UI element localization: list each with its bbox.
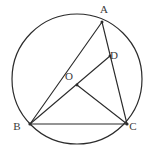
label-b: B bbox=[13, 120, 20, 132]
label-a: A bbox=[100, 3, 108, 15]
label-o: O bbox=[65, 70, 73, 82]
segment-o-c bbox=[77, 85, 127, 124]
vertex-point-c bbox=[125, 122, 128, 125]
segment-b-d-through-o bbox=[30, 56, 110, 124]
vertex-point-o bbox=[76, 84, 79, 87]
label-d: D bbox=[110, 49, 118, 61]
vertex-point-b bbox=[28, 122, 31, 125]
geometry-figure: A B C D O bbox=[0, 0, 155, 154]
geometry-canvas: A B C D O bbox=[0, 0, 155, 154]
vertex-point-a bbox=[101, 21, 104, 24]
label-c: C bbox=[129, 120, 136, 132]
segment-a-c bbox=[102, 22, 127, 124]
